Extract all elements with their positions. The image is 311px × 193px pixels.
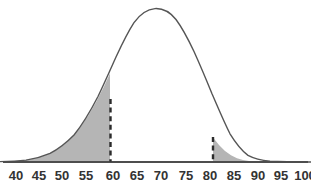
- x-tick-label-45: 45: [32, 169, 46, 182]
- x-tick-label-65: 65: [130, 169, 144, 182]
- x-tick-label-100: 100: [294, 169, 311, 182]
- x-tick-label-70: 70: [154, 169, 168, 182]
- x-tick-label-95: 95: [274, 169, 288, 182]
- x-tick-label-55: 55: [79, 169, 93, 182]
- x-tick-label-75: 75: [179, 169, 193, 182]
- x-tick-label-40: 40: [9, 169, 23, 182]
- chart-canvas: [0, 0, 311, 193]
- right-tail-shaded-region: [213, 138, 311, 163]
- x-tick-label-80: 80: [203, 169, 217, 182]
- left-tail-shaded-region: [0, 73, 110, 162]
- x-tick-label-50: 50: [55, 169, 69, 182]
- x-tick-label-90: 90: [251, 169, 265, 182]
- x-tick-label-85: 85: [227, 169, 241, 182]
- normal-distribution-chart: 40 45 50 55 60 65 70 75 80 85 90 95 100: [0, 0, 311, 193]
- normal-curve-line: [0, 9, 311, 162]
- x-tick-label-60: 60: [106, 169, 120, 182]
